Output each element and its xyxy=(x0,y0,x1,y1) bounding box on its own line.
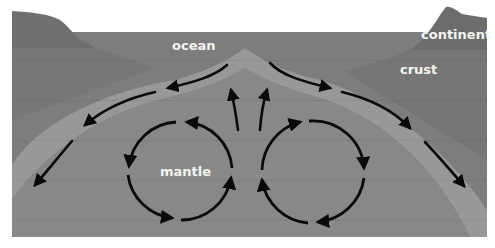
left-continent xyxy=(12,11,95,48)
ocean-label: ocean xyxy=(172,38,215,53)
mantle-label: mantle xyxy=(160,164,211,179)
crust-label: crust xyxy=(400,62,437,77)
mantle-convection-diagram: ocean continent crust mantle xyxy=(0,0,495,248)
continent-label: continent xyxy=(421,27,491,42)
